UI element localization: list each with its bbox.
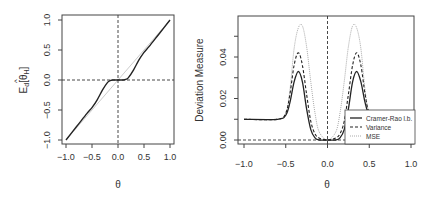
legend-label-variance: Variance (366, 124, 392, 131)
left-plot-content (62, 15, 174, 144)
x-tick-label: 1.0 (405, 159, 418, 169)
y-tick-label: 0.5 (42, 44, 52, 57)
legend-label-crlb: Cramer-Rao l.b. (366, 115, 412, 122)
x-tick-label: −1.0 (235, 159, 253, 169)
y-tick-label: 0.04 (218, 48, 228, 66)
left-plot: −1.0−0.50.00.51.0 −1.0−0.50.00.51.0 θ Ed… (12, 14, 176, 190)
hat-symbol: ^ (12, 79, 21, 83)
x-tick-label: 0.0 (321, 159, 334, 169)
legend: Cramer-Rao l.b. Variance MSE (345, 110, 415, 144)
x-tick-label: −0.5 (83, 152, 101, 162)
left-y-axis: −1.0−0.50.00.51.0 (42, 14, 62, 149)
legend-label-mse: MSE (366, 133, 381, 140)
right-y-label: Deviation Measure (194, 38, 205, 122)
figure: −1.0−0.50.00.51.0 −1.0−0.50.00.51.0 θ Ed… (0, 0, 430, 198)
x-tick-label: −0.5 (277, 159, 295, 169)
x-tick-label: 0.5 (138, 152, 151, 162)
x-tick-label: 0.0 (112, 152, 125, 162)
right-y-axis: 0.000.020.04 (218, 36, 238, 149)
left-y-label: Ed[θH] ^ (12, 66, 30, 93)
y-tick-label: 0.0 (42, 74, 52, 87)
left-x-label: θ (115, 179, 121, 190)
right-plot: −1.0−0.50.00.51.0 0.000.020.04 θ Deviati… (194, 16, 417, 190)
left-x-axis: −1.0−0.50.00.51.0 (57, 144, 176, 162)
y-tick-label: −1.0 (42, 131, 52, 149)
x-tick-label: −1.0 (57, 152, 75, 162)
y-tick-label: 1.0 (42, 14, 52, 27)
y-tick-label: 0.00 (218, 131, 228, 149)
right-x-axis: −1.0−0.50.00.51.0 (235, 144, 417, 169)
right-x-label: θ (324, 179, 330, 190)
y-tick-label: −0.5 (42, 101, 52, 119)
x-tick-label: 1.0 (164, 152, 177, 162)
y-tick-label: 0.02 (218, 90, 228, 108)
x-tick-label: 0.5 (363, 159, 376, 169)
